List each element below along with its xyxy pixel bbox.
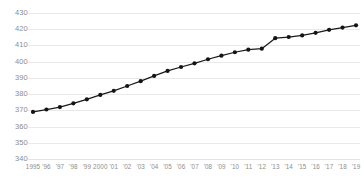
x-axis-label-2001: '01 xyxy=(109,164,118,170)
data-point-2012 xyxy=(260,47,264,51)
x-axis-label-2014: '14 xyxy=(284,164,293,170)
y-axis-label-370: 370 xyxy=(2,106,28,114)
plot-area: 340350360370380390400410420430 1995'96'9… xyxy=(28,13,360,159)
x-axis-label-2004: '04 xyxy=(150,164,159,170)
data-point-1998 xyxy=(71,101,75,105)
data-point-2010 xyxy=(233,50,237,54)
x-axis-label-2013: '13 xyxy=(271,164,280,170)
data-point-2018 xyxy=(340,26,344,30)
data-point-1999 xyxy=(85,97,89,101)
x-axis-label-1995: 1995 xyxy=(26,164,40,170)
line-chart: 340350360370380390400410420430 1995'96'9… xyxy=(0,0,364,178)
x-axis-label-2005: '05 xyxy=(163,164,172,170)
x-axis-label-2009: '09 xyxy=(217,164,226,170)
y-axis-label-350: 350 xyxy=(2,139,28,147)
y-axis-label-430: 430 xyxy=(2,9,28,17)
data-point-2005 xyxy=(165,69,169,73)
x-axis-label-2002: '02 xyxy=(123,164,132,170)
y-axis-label-410: 410 xyxy=(2,41,28,49)
data-point-2019 xyxy=(354,23,358,27)
x-axis-label-2011: '11 xyxy=(244,164,252,170)
series-layer xyxy=(28,13,360,159)
data-point-2003 xyxy=(139,79,143,83)
data-point-2004 xyxy=(152,74,156,78)
x-axis-label-2019: '19 xyxy=(352,164,361,170)
y-axis-label-400: 400 xyxy=(2,58,28,66)
y-axis-label-420: 420 xyxy=(2,25,28,33)
x-axis-label-2007: '07 xyxy=(190,164,199,170)
x-axis-label-1997: '97 xyxy=(56,164,65,170)
data-point-2000 xyxy=(98,93,102,97)
data-point-2007 xyxy=(192,61,196,65)
data-point-2009 xyxy=(219,54,223,58)
data-point-2002 xyxy=(125,84,129,88)
data-point-1997 xyxy=(58,105,62,109)
data-point-2016 xyxy=(314,31,318,35)
x-axis-label-2003: '03 xyxy=(136,164,145,170)
y-axis-label-380: 380 xyxy=(2,90,28,98)
x-axis-label-1999: '99 xyxy=(83,164,92,170)
data-point-2006 xyxy=(179,65,183,69)
series-markers xyxy=(31,23,358,114)
y-axis-label-340: 340 xyxy=(2,155,28,163)
data-point-2015 xyxy=(300,33,304,37)
data-point-2014 xyxy=(287,35,291,39)
data-point-1995 xyxy=(31,110,35,114)
x-axis-label-2006: '06 xyxy=(177,164,186,170)
data-point-2011 xyxy=(246,48,250,52)
x-axis-label-2000: 2000 xyxy=(93,164,107,170)
x-axis-label-2010: '10 xyxy=(231,164,240,170)
x-axis-label-1998: '98 xyxy=(69,164,78,170)
x-axis-label-1996: '96 xyxy=(42,164,51,170)
gridline-340 xyxy=(28,159,360,160)
series-line xyxy=(33,25,356,112)
data-point-2001 xyxy=(112,89,116,93)
x-axis-label-2015: '15 xyxy=(298,164,307,170)
data-point-2008 xyxy=(206,57,210,61)
x-axis-label-2008: '08 xyxy=(204,164,213,170)
data-point-2013 xyxy=(273,36,277,40)
y-axis-label-360: 360 xyxy=(2,123,28,131)
data-point-2017 xyxy=(327,28,331,32)
x-axis-label-2012: '12 xyxy=(258,164,267,170)
data-point-1996 xyxy=(44,107,48,111)
x-axis-label-2017: '17 xyxy=(325,164,334,170)
x-axis-label-2018: '18 xyxy=(338,164,347,170)
x-axis-label-2016: '16 xyxy=(311,164,320,170)
y-axis-label-390: 390 xyxy=(2,74,28,82)
